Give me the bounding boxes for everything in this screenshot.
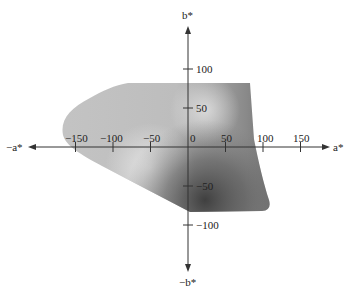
x-tick-label: −100 <box>100 132 123 144</box>
arrow-down-icon <box>185 264 191 272</box>
arrow-up-icon <box>185 26 191 34</box>
a-pos-label: a* <box>333 141 343 153</box>
x-tick-label: 100 <box>257 132 274 144</box>
lab-diagram: −a* a* b* −b* −150 −100 −50 0 50 100 150… <box>0 0 348 296</box>
y-tick-label: −100 <box>196 219 219 231</box>
x-tick-label: 50 <box>221 132 233 144</box>
y-tick-label: −50 <box>196 180 214 192</box>
x-tick-label: −150 <box>65 132 88 144</box>
b-pos-label: b* <box>182 9 193 21</box>
y-tick-label: 50 <box>196 102 208 114</box>
x-tick-label: 0 <box>190 132 196 144</box>
x-tick-label: −50 <box>143 132 161 144</box>
a-neg-label: −a* <box>6 141 23 153</box>
arrow-right-icon <box>322 144 330 150</box>
arrow-left-icon <box>28 144 36 150</box>
x-tick-label: 150 <box>293 132 310 144</box>
y-tick-label: 100 <box>196 63 213 75</box>
b-neg-label: −b* <box>179 276 196 288</box>
